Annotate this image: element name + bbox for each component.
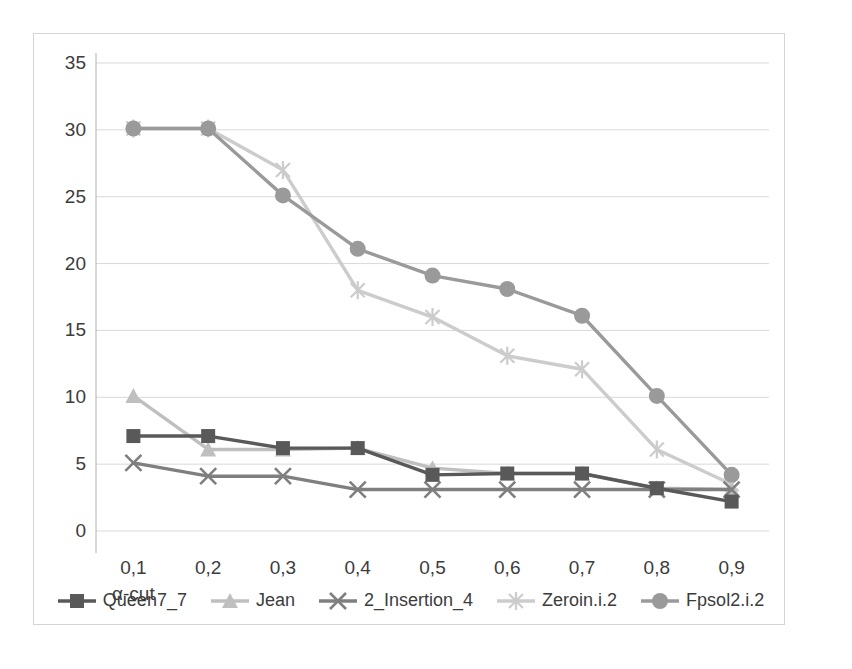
x-tick-label: 0,3 bbox=[248, 558, 318, 577]
legend-label: Queen7_7 bbox=[103, 590, 187, 611]
legend-marker-square-icon bbox=[56, 591, 98, 611]
x-tick-label: 0,2 bbox=[173, 558, 243, 577]
plot-area bbox=[34, 34, 786, 626]
data-point-marker bbox=[650, 481, 664, 495]
y-tick-label: 5 bbox=[42, 454, 86, 473]
x-tick-label: 0,7 bbox=[547, 558, 617, 577]
data-point-marker bbox=[500, 467, 514, 481]
legend-item[interactable]: Jean bbox=[209, 590, 295, 611]
legend-label: Jean bbox=[256, 590, 295, 611]
y-tick-label: 0 bbox=[42, 521, 86, 540]
y-tick-label: 10 bbox=[42, 387, 86, 406]
legend-marker-circle-icon bbox=[639, 591, 681, 611]
legend-label: Fpsol2.i.2 bbox=[686, 590, 764, 611]
data-point-marker bbox=[126, 429, 140, 443]
data-point-marker bbox=[426, 468, 440, 482]
data-point-marker bbox=[652, 593, 668, 609]
y-tick-label: 35 bbox=[42, 53, 86, 72]
data-point-marker bbox=[649, 388, 665, 404]
data-point-marker bbox=[276, 161, 290, 179]
x-tick-label: 0,5 bbox=[398, 558, 468, 577]
data-point-marker bbox=[725, 495, 739, 509]
legend-marker-asterisk-icon bbox=[495, 591, 537, 611]
x-tick-label: 0,6 bbox=[472, 558, 542, 577]
chart-legend: Queen7_7Jean2_Insertion_4Zeroin.i.2Fpsol… bbox=[34, 590, 786, 611]
y-tick-label: 15 bbox=[42, 320, 86, 339]
legend-label: 2_Insertion_4 bbox=[364, 590, 473, 611]
data-point-marker bbox=[276, 441, 290, 455]
legend-label: Zeroin.i.2 bbox=[542, 590, 617, 611]
legend-marker-x-icon bbox=[317, 591, 359, 611]
legend-item[interactable]: Queen7_7 bbox=[56, 590, 187, 611]
x-tick-label: 0,4 bbox=[323, 558, 393, 577]
data-point-marker bbox=[350, 241, 366, 257]
series-fpsol2-i-2 bbox=[125, 121, 739, 483]
data-point-marker bbox=[275, 187, 291, 203]
data-point-marker bbox=[575, 467, 589, 481]
data-point-marker bbox=[70, 594, 84, 608]
data-point-marker bbox=[125, 388, 141, 403]
data-point-marker bbox=[724, 467, 740, 483]
legend-item[interactable]: Zeroin.i.2 bbox=[495, 590, 617, 611]
chart-canvas bbox=[34, 34, 786, 626]
y-tick-label: 20 bbox=[42, 254, 86, 273]
x-tick-label: 0,8 bbox=[622, 558, 692, 577]
data-point-marker bbox=[574, 308, 590, 324]
data-point-marker bbox=[351, 441, 365, 455]
legend-marker-triangle-icon bbox=[209, 591, 251, 611]
data-point-marker bbox=[650, 440, 664, 458]
x-tick-label: 0,1 bbox=[98, 558, 168, 577]
legend-item[interactable]: Fpsol2.i.2 bbox=[639, 590, 764, 611]
y-tick-label: 25 bbox=[42, 187, 86, 206]
data-point-marker bbox=[125, 121, 141, 137]
data-point-marker bbox=[425, 268, 441, 284]
y-tick-label: 30 bbox=[42, 120, 86, 139]
x-tick-label: 0,9 bbox=[697, 558, 767, 577]
chart-frame: 05101520253035 0,10,20,30,40,50,60,70,80… bbox=[33, 33, 785, 625]
legend-item[interactable]: 2_Insertion_4 bbox=[317, 590, 473, 611]
data-point-marker bbox=[499, 281, 515, 297]
data-point-marker bbox=[201, 429, 215, 443]
data-point-marker bbox=[200, 121, 216, 137]
